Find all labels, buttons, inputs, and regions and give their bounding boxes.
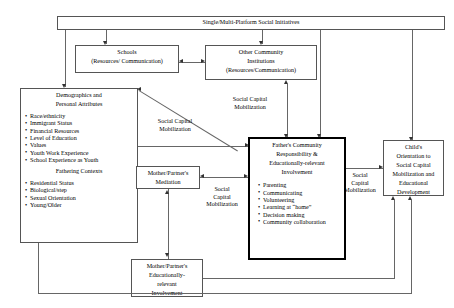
- arrowhead-rail-inner-to-child: [391, 196, 395, 200]
- arrowhead-father-to-mediation: [200, 174, 204, 178]
- label-social-capital-mobilization-top: Social Capital Mobilization: [215, 96, 285, 111]
- edge-initiatives-to-father: [320, 30, 321, 137]
- list-item: Level of Education: [25, 135, 137, 142]
- diagram-canvas: Single/Multi-Platform Social Initiatives…: [0, 0, 454, 308]
- box-child-line-2: Orientation to: [384, 151, 443, 160]
- box-mother-involvement-line-3: relevant: [132, 279, 202, 288]
- list-item: Community collaboration: [258, 219, 344, 226]
- list-item: Communicating: [258, 190, 344, 197]
- demographics-list: Race/ethnicity Immigrant Status Financia…: [21, 113, 137, 164]
- box-other-community-line-3: (Resources/Communication): [206, 65, 316, 74]
- box-mother-partner-mediation: Mother/Partner's Mediation: [136, 166, 200, 189]
- list-item: School Experience as Youth: [25, 157, 137, 164]
- list-item: Residential Status: [25, 180, 137, 187]
- box-father-heading-3: Educationally-relevant: [250, 158, 344, 167]
- edge-demographics-rail-drop: [38, 243, 39, 293]
- label-scm-right-line-3: Mobilization: [337, 187, 383, 195]
- box-child-line-1: Child's: [384, 141, 443, 151]
- edge-mediation-to-involvement: [168, 189, 169, 261]
- label-scm-right-line-2: Capital: [337, 180, 383, 188]
- box-schools: Schools (Resources/ Communication): [75, 45, 179, 73]
- list-item: Decision making: [258, 212, 344, 219]
- box-child-orientation-outcome: Child's Orientation to Social Capital Mo…: [383, 140, 444, 196]
- father-involvement-list: Parenting Communicating Volunteering Lea…: [250, 182, 344, 226]
- box-demographics-heading-2: Personal Attributes: [21, 99, 137, 108]
- box-mother-mediation-line-1: Mother/Partner's: [137, 167, 199, 177]
- box-father-heading-1: Father's Community: [250, 139, 344, 149]
- box-child-line-3: Social Capital: [384, 160, 443, 169]
- label-social-capital-mobilization-left: Social Capital Mobilization: [140, 118, 210, 133]
- edge-outer-bottom-rail: [38, 293, 412, 294]
- box-schools-line-1: Schools: [76, 46, 178, 56]
- list-item: Immigrant Status: [25, 120, 137, 127]
- box-other-community-line-1: Other Community: [206, 46, 316, 56]
- edge-rail-inner-riser: [394, 200, 395, 278]
- fathering-contexts-list: Residential Status Biological/step Sexua…: [21, 180, 137, 209]
- arrowhead-demographics-to-schools: [137, 87, 141, 91]
- arrowhead-to-other-community: [201, 59, 205, 63]
- arrowhead-to-schools: [179, 59, 183, 63]
- label-scm-left-line-2: Mobilization: [140, 126, 210, 134]
- edge-demographics-to-father: [138, 146, 248, 147]
- box-father-heading-2: Responsibility &: [250, 149, 344, 158]
- list-item: Sexual Orientation: [25, 195, 137, 202]
- list-item: Young/Older: [25, 202, 137, 209]
- list-item: Volunteering: [258, 197, 344, 204]
- box-mother-involvement-line-1: Mother/Partner's: [132, 260, 202, 270]
- label-scm-top-line-1: Social Capital: [215, 96, 285, 104]
- box-demographics-personal-attributes: Demographics and Personal Attributes Rac…: [20, 88, 138, 243]
- edge-initiatives-to-demographics: [65, 30, 66, 87]
- arrowhead-father-to-child: [379, 165, 383, 169]
- box-demographics-heading-1: Demographics and: [21, 89, 137, 99]
- list-item: Biological/step: [25, 187, 137, 194]
- arrowhead-rail-outer-to-child: [408, 196, 412, 200]
- edge-initiatives-to-child: [412, 30, 413, 140]
- box-mother-mediation-line-2: Mediation: [137, 177, 199, 186]
- arrowhead-mediation-to-involvement: [165, 253, 169, 257]
- box-mother-partner-educational-involvement: Mother/Partner's Educationally- relevant…: [131, 259, 203, 297]
- box-schools-line-2: (Resources/ Communication): [76, 56, 178, 65]
- box-social-initiatives: Single/Multi-Platform Social Initiatives: [57, 16, 445, 30]
- edge-father-to-child: [346, 168, 383, 169]
- box-father-heading-4: Involvement: [250, 167, 344, 176]
- list-item: Values: [25, 142, 137, 149]
- label-scm-left-line-1: Social Capital: [140, 118, 210, 126]
- box-social-initiatives-label: Single/Multi-Platform Social Initiatives: [58, 17, 444, 26]
- edge-father-to-other-community: [287, 84, 288, 137]
- label-scm-mid-line-2: Capital: [198, 194, 246, 202]
- edge-mother-involvement-rail-inner: [203, 278, 395, 279]
- label-scm-mid-line-1: Social: [198, 186, 246, 194]
- label-scm-right-line-1: Social: [337, 172, 383, 180]
- list-item: Parenting: [258, 182, 344, 189]
- edge-father-to-mediation: [200, 177, 248, 178]
- arrowhead-father-to-other-community: [284, 80, 288, 84]
- label-social-capital-mobilization-right: Social Capital Mobilization: [337, 172, 383, 195]
- box-demographics-subheading: Fathering Contexts: [21, 168, 137, 175]
- box-other-community-institutions: Other Community Institutions (Resources/…: [205, 45, 317, 80]
- list-item: Financial Resources: [25, 128, 137, 135]
- label-scm-mid-line-3: Mobilization: [198, 201, 246, 209]
- box-fathers-community-responsibility: Father's Community Responsibility & Educ…: [248, 137, 346, 260]
- label-scm-top-line-2: Mobilization: [215, 104, 285, 112]
- edge-rail-outer-riser: [411, 200, 412, 293]
- list-item: Race/ethnicity: [25, 113, 137, 120]
- label-social-capital-mobilization-middle: Social Capital Mobilization: [198, 186, 246, 209]
- box-child-line-5: Educational: [384, 178, 443, 187]
- list-item: Learning at “home”: [258, 204, 344, 211]
- arrowhead-involvement-to-mediation: [165, 190, 169, 194]
- box-child-line-4: Mobilization and: [384, 169, 443, 178]
- box-mother-involvement-line-2: Educationally-: [132, 270, 202, 279]
- list-item: Youth Work Experience: [25, 150, 137, 157]
- box-other-community-line-2: Institutions: [206, 56, 316, 65]
